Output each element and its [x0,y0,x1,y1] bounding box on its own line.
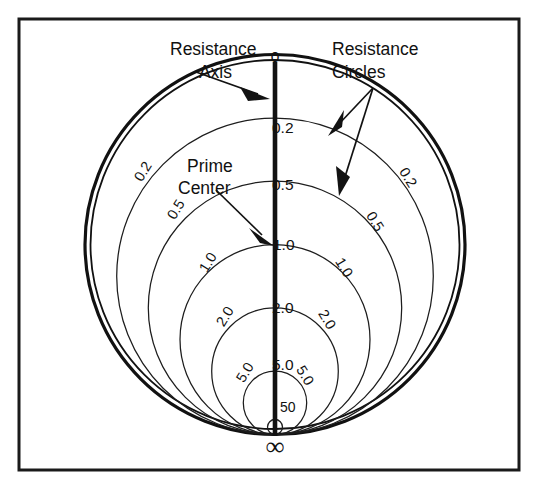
resistance-circles-label-line2: Circles [332,62,386,82]
arc-label-left-2-0: 2.0 [213,304,237,330]
resistance-axis-label-line1: Resistance [170,39,257,59]
smith-chart-canvas: Resistance Axis Resistance Circles Prime… [0,0,540,480]
arc-label-right-1-0: 1.0 [332,255,356,281]
callout-prime-center: Prime Center [178,156,274,246]
arc-label-left-5-0: 5.0 [233,360,257,386]
axis-label-infinity: ∞ [266,432,285,461]
resistance-circles-label-line1: Resistance [332,39,419,59]
axis-label-0: 0 [271,48,280,65]
prime-center-arrowhead [249,228,274,246]
arc-label-right-0-5: 0.5 [363,209,387,235]
prime-center-label-line1: Prime [187,156,233,176]
resistance-axis-arrowhead [240,87,270,101]
resistance-circles-leader-b [344,88,373,180]
callout-resistance-axis: Resistance Axis [170,39,270,101]
arc-label-right-0-2: 0.2 [396,165,420,191]
axis-label-2-0: 2.0 [272,299,294,316]
arc-label-left-0-2: 0.2 [131,159,155,185]
axis-label-1-0: 1.0 [273,236,295,253]
axis-label-0-2: 0.2 [272,119,294,136]
axis-label-0-5: 0.5 [272,176,294,193]
arc-label-left-1-0: 1.0 [196,250,220,276]
arc-labels-right: 0.2 0.5 1.0 2.0 5.0 [293,165,420,389]
arc-label-right-2-0: 2.0 [315,307,339,333]
resistance-circles-arrowhead-b [336,166,350,196]
axis-value-labels: 0 0.2 0.5 1.0 2.0 5.0 50 ∞ [266,48,296,461]
axis-label-50: 50 [280,399,296,415]
axis-label-5-0: 5.0 [272,356,294,373]
smith-chart-figure: Resistance Axis Resistance Circles Prime… [0,0,540,480]
arc-label-right-5-0: 5.0 [293,363,317,389]
prime-center-label-line2: Center [178,178,231,198]
resistance-axis-label-line2: Axis [199,62,232,82]
arc-label-left-0-5: 0.5 [164,197,188,223]
